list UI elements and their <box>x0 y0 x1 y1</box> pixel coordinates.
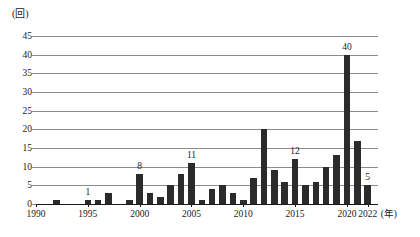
y-tick-25 <box>32 111 36 112</box>
y-axis-tick-labels: 051015202530354045 <box>0 36 32 204</box>
x-axis-unit-label: (年) <box>381 209 397 220</box>
bar-2018 <box>323 167 330 204</box>
gridline-45 <box>36 36 378 37</box>
plot-area: 181112405 <box>36 36 378 204</box>
x-tick-2020 <box>347 204 348 207</box>
bar-2017 <box>313 182 320 204</box>
y-tick-15 <box>32 148 36 149</box>
bar-2002 <box>157 197 164 204</box>
x-tick-1990 <box>36 204 37 207</box>
x-tick-2010 <box>243 204 244 207</box>
x-axis: 19901995200020052010201520202022(年) <box>36 204 378 234</box>
bar-2020 <box>344 55 351 204</box>
bar-value-label-2022: 5 <box>365 173 370 183</box>
y-tick-5 <box>32 185 36 186</box>
x-tick-1995 <box>88 204 89 207</box>
y-tick-label-35: 35 <box>4 69 32 79</box>
y-tick-label-10: 10 <box>4 162 32 172</box>
x-tick-label-2015: 2015 <box>286 209 305 220</box>
x-tick-label-2020: 2020 <box>337 209 356 220</box>
bar-value-label-1995: 1 <box>85 188 90 198</box>
bar-2019 <box>333 155 340 204</box>
bar-2013 <box>271 170 278 204</box>
bar-2001 <box>147 193 154 204</box>
y-tick-10 <box>32 167 36 168</box>
bar-value-label-2020: 40 <box>342 43 352 53</box>
bar-2012 <box>261 129 268 204</box>
x-tick-label-1995: 1995 <box>78 209 97 220</box>
y-tick-label-25: 25 <box>4 106 32 116</box>
bar-2005 <box>188 163 195 204</box>
x-tick-label-2022: 2022 <box>358 209 377 220</box>
bar-2014 <box>281 182 288 204</box>
y-tick-label-15: 15 <box>4 144 32 154</box>
bar-value-label-2005: 11 <box>187 151 196 161</box>
gridline-30 <box>36 92 378 93</box>
x-tick-label-2010: 2010 <box>234 209 253 220</box>
x-tick-2005 <box>191 204 192 207</box>
bar-2009 <box>230 193 237 204</box>
y-tick-label-30: 30 <box>4 88 32 98</box>
y-tick-35 <box>32 73 36 74</box>
x-tick-label-1990: 1990 <box>27 209 46 220</box>
x-tick-label-2005: 2005 <box>182 209 201 220</box>
bar-2016 <box>302 185 309 204</box>
y-tick-45 <box>32 36 36 37</box>
x-tick-label-2000: 2000 <box>130 209 149 220</box>
bar-value-label-2015: 12 <box>290 147 300 157</box>
bar-value-label-2000: 8 <box>137 162 142 172</box>
bar-2015 <box>292 159 299 204</box>
x-tick-2022 <box>368 204 369 207</box>
y-tick-label-0: 0 <box>4 200 32 210</box>
bar-2004 <box>178 174 185 204</box>
gridline-25 <box>36 111 378 112</box>
bar-1997 <box>105 193 112 204</box>
y-tick-20 <box>32 129 36 130</box>
bar-2008 <box>219 185 226 204</box>
bar-2021 <box>354 141 361 204</box>
y-tick-label-40: 40 <box>4 50 32 60</box>
y-tick-label-20: 20 <box>4 125 32 135</box>
gridline-15 <box>36 148 378 149</box>
gridline-35 <box>36 73 378 74</box>
bar-2003 <box>167 185 174 204</box>
x-tick-2000 <box>140 204 141 207</box>
bar-2022 <box>364 185 371 204</box>
bar-chart: (回) 051015202530354045 181112405 1990199… <box>0 0 420 237</box>
bar-2011 <box>250 178 257 204</box>
y-tick-40 <box>32 55 36 56</box>
y-axis-unit-label: (回) <box>12 8 29 20</box>
y-tick-label-5: 5 <box>4 181 32 191</box>
x-tick-2015 <box>295 204 296 207</box>
bar-2000 <box>136 174 143 204</box>
bar-2007 <box>209 189 216 204</box>
y-tick-label-45: 45 <box>4 32 32 42</box>
gridline-40 <box>36 55 378 56</box>
y-tick-30 <box>32 92 36 93</box>
gridline-20 <box>36 129 378 130</box>
